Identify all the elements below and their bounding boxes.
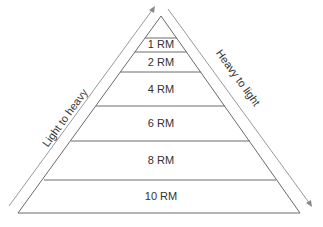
right-arrow-label: Heavy to light xyxy=(214,47,263,108)
tier-label-1rm: 1 RM xyxy=(148,38,174,50)
tier-label-10rm: 10 RM xyxy=(145,190,177,202)
arrowhead-down-icon xyxy=(306,200,312,207)
right-arrow xyxy=(168,9,312,207)
left-arrow-label: Light to heavy xyxy=(40,86,90,149)
arrowhead-up-icon xyxy=(149,6,155,13)
tier-label-8rm: 8 RM xyxy=(148,154,174,166)
tier-label-2rm: 2 RM xyxy=(148,56,174,68)
tier-label-4rm: 4 RM xyxy=(148,83,174,95)
rm-pyramid-diagram: 1 RM 2 RM 4 RM 6 RM 8 RM 10 RM Light to … xyxy=(0,0,323,227)
tier-label-6rm: 6 RM xyxy=(148,117,174,129)
